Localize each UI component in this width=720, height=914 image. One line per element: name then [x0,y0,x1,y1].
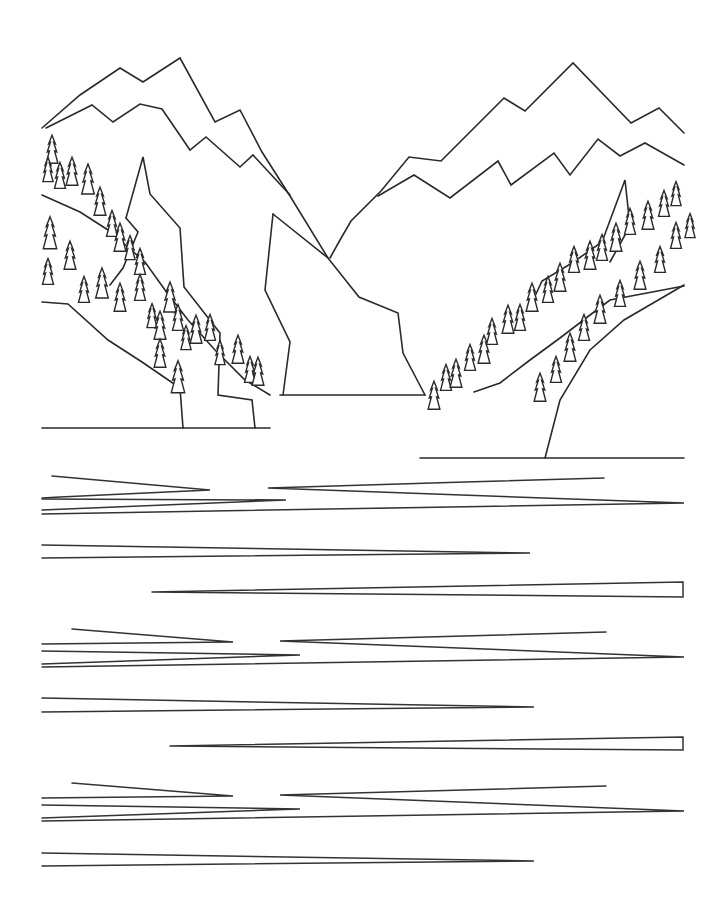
trees-group [43,135,696,409]
water-ripple-line [42,853,534,866]
right-slope-lower [545,285,684,458]
left-tree-icon [147,304,157,328]
right-tree-icon [551,356,562,382]
water-ripple-line [152,582,683,597]
right-inner-ridge [378,139,684,198]
right-tree-icon [526,283,538,311]
water-ripple-line [42,783,233,798]
left-tree-icon [135,248,146,274]
left-tree-icon [205,314,216,340]
right-tree-icon [487,318,498,344]
right-tree-icon [534,373,546,401]
mountain-lake-illustration [0,0,720,914]
water-ripple-line [42,698,534,712]
right-tree-icon [671,222,682,248]
left-tree-icon [43,217,56,249]
right-tree-icon [615,280,626,306]
left-tree-icon [96,268,109,298]
water-ripple-line [42,632,684,667]
right-tree-icon [685,214,695,238]
right-tree-icon [610,223,622,251]
left-tree-icon [114,283,126,311]
right-tree-icon [671,182,681,206]
water-ripple-line [42,805,300,818]
right-tree-icon [428,381,440,409]
water-ripple-line [42,499,286,510]
left-tree-icon [66,157,78,185]
water-ripple-line [42,629,233,644]
left-tree-icon [171,361,184,393]
left-tree-icon [190,315,202,343]
right-tree-icon [579,314,590,340]
left-tree-icon [125,236,135,260]
right-tree-icon [634,261,646,289]
left-tree-icon [164,282,177,312]
right-tree-icon [584,241,596,269]
center-rock-right [273,214,425,395]
left-tree-icon [252,357,264,385]
right-tree-icon [597,234,608,260]
left-tree-icon [215,341,225,365]
water-ripple-line [42,651,300,664]
left-outer-ridge [42,58,328,258]
left-tree-icon [232,335,244,363]
left-tree-icon [135,274,146,300]
water-ripple-line [170,737,683,750]
left-tree-icon [55,162,66,188]
left-tree-icon [154,339,166,367]
water-group [42,476,684,866]
right-tree-icon [594,295,606,323]
left-tree-icon [82,164,95,194]
right-tree-icon [659,190,670,216]
right-tree-icon [465,344,476,370]
water-ripple-line [42,786,684,821]
right-tree-icon [625,208,636,234]
left-cliff [126,157,255,428]
center-rock-left [265,214,290,395]
left-tree-icon [43,258,54,284]
left-tree-icon [94,187,106,215]
left-tree-icon [114,223,126,251]
right-tree-icon [564,333,576,361]
shorelines-group [42,395,684,458]
right-tree-icon [502,305,514,333]
right-tree-icon [655,246,666,272]
right-tree-icon [515,304,526,330]
right-tree-icon [450,359,462,387]
water-ripple-line [42,545,530,558]
right-tree-icon [569,246,580,272]
right-tree-icon [642,201,654,229]
left-tree-icon [79,276,90,302]
left-tree-icon [64,241,76,269]
water-ripple-line [42,476,210,498]
